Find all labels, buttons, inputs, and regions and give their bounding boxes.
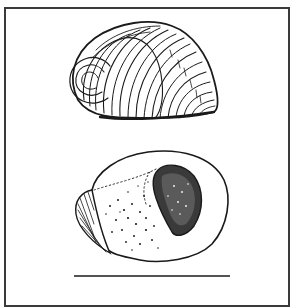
- shell-dorsal-view: [70, 22, 218, 119]
- shell-ventral-view: [76, 151, 228, 261]
